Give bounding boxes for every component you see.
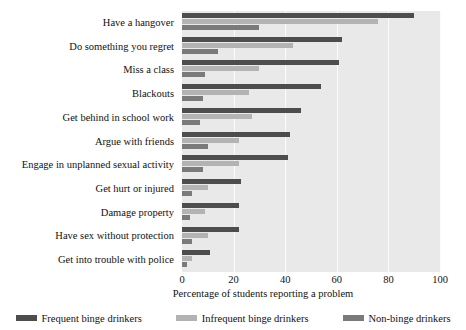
bar-group [182,35,440,59]
x-tick-label: 20 [228,274,239,286]
bar [182,191,192,196]
bar-group [182,82,440,106]
bar [182,114,252,119]
bar [182,239,192,244]
bar [182,25,259,30]
bar [182,108,301,113]
bar-group [182,248,440,272]
bar-group [182,225,440,249]
category-label: Have sex without protection [55,230,174,241]
bar [182,167,203,172]
legend-swatch-icon [176,315,197,321]
bar [182,90,249,95]
category-label: Do something you regret [69,41,174,52]
bar [182,66,259,71]
x-axis-title: Percentage of students reporting a probl… [0,288,466,299]
bar-group [182,58,440,82]
bar-group [182,177,440,201]
category-label: Get hurt or injured [96,183,174,194]
bar [182,256,192,261]
x-tick-label: 0 [179,274,184,286]
bar [182,179,241,184]
category-axis-labels: Have a hangoverDo something you regretMi… [0,11,178,272]
category-label: Argue with friends [95,136,174,147]
x-tick-label: 100 [432,274,448,286]
category-label: Engage in unplanned sexual activity [22,159,174,170]
bar [182,209,205,214]
category-label: Get into trouble with police [58,254,174,265]
bar [182,144,208,149]
bar-group [182,130,440,154]
bar [182,37,342,42]
bar [182,233,208,238]
bar [182,19,378,24]
legend-item[interactable]: Non-binge drinkers [343,313,451,324]
bar [182,138,239,143]
legend-label: Infrequent binge drinkers [202,313,309,324]
bar [182,49,218,54]
chart-figure: Have a hangoverDo something you regretMi… [0,0,466,330]
bar-group [182,106,440,130]
legend-swatch-icon [16,315,37,321]
bar [182,120,200,125]
bar [182,72,205,77]
bar-group [182,201,440,225]
bar [182,60,339,65]
category-label: Miss a class [123,64,174,75]
bar [182,185,208,190]
chart-legend: Frequent binge drinkersInfrequent binge … [0,311,466,325]
legend-item[interactable]: Infrequent binge drinkers [176,313,309,324]
bar-group [182,153,440,177]
legend-item[interactable]: Frequent binge drinkers [16,313,142,324]
x-axis-title-text: Percentage of students reporting a probl… [113,288,353,299]
legend-swatch-icon [343,315,364,321]
legend-label: Non-binge drinkers [369,313,451,324]
bar [182,227,239,232]
category-label: Damage property [101,207,174,218]
category-label: Blackouts [132,88,174,99]
bar [182,43,293,48]
bar [182,262,187,267]
bar [182,161,239,166]
bar [182,203,239,208]
bar-group [182,11,440,35]
x-tick-label: 40 [280,274,291,286]
x-tick-label: 60 [332,274,343,286]
legend-label: Frequent binge drinkers [42,313,142,324]
bar [182,215,190,220]
x-tick-label: 80 [383,274,394,286]
category-label: Have a hangover [103,17,174,28]
bar [182,155,288,160]
bar-groups [182,11,440,272]
bar [182,96,203,101]
bar [182,84,321,89]
bar [182,13,414,18]
gridline [440,11,441,272]
bar [182,250,210,255]
bar [182,132,290,137]
category-label: Get behind in school work [63,112,174,123]
